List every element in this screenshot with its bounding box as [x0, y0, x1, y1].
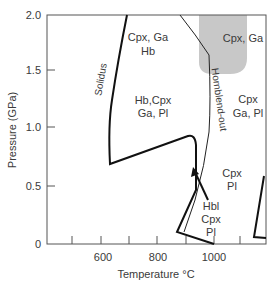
y-tick-label: 0.5 — [26, 180, 41, 192]
field-label: Pl — [227, 180, 237, 192]
x-tick-label: 1000 — [202, 251, 226, 263]
field-label: Cpx — [238, 93, 258, 105]
y-tick-label: 2.0 — [26, 9, 41, 21]
y-axis-ticks — [47, 70, 55, 186]
solidus-label: Solidus — [92, 62, 109, 96]
y-tick-label: 0 — [35, 238, 41, 250]
field-label: Hb,Cpx — [135, 94, 172, 106]
field-label: Ga, Pl — [138, 107, 169, 119]
field-label: Cpx — [201, 213, 221, 225]
y-tick-label: 1.0 — [26, 121, 41, 133]
hornblend-out-label: Hornblend-out — [210, 67, 230, 132]
y-tick-label: 1.5 — [26, 64, 41, 76]
right-boundary-curve — [254, 176, 266, 238]
x-axis-label: Temperature °C — [117, 268, 194, 280]
field-label: Ga, Pl — [233, 107, 264, 119]
phase-diagram: 2.0 1.5 1.0 0.5 0 600 800 1000 Temperatu… — [0, 0, 279, 287]
x-tick-label: 800 — [149, 251, 167, 263]
y-axis-label: Pressure (GPa) — [6, 92, 18, 168]
solidus-curve — [109, 15, 214, 244]
field-label: Cpx, Ga — [128, 31, 169, 43]
x-tick-label: 600 — [94, 251, 112, 263]
field-label: Hbl — [203, 200, 220, 212]
field-label: Cpx — [222, 167, 242, 179]
shaded-region-cpx-ga — [199, 15, 247, 74]
field-label: Cpx, Ga — [223, 32, 264, 44]
field-label: Hb — [141, 45, 155, 57]
field-label: Pl — [206, 226, 216, 238]
